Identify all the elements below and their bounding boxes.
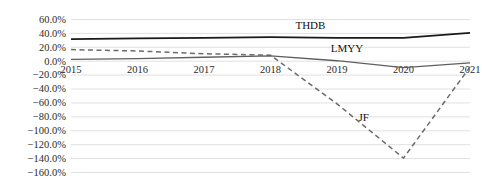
chart-canvas: 60.0%40.0%20.0%0.0%−20.0%−40.0%−60.0%−80… [0,0,482,191]
y-tick-label-10: −140.0% [28,153,67,164]
series-label-thdb: THDB [295,19,325,31]
x-tick-label-3: 2018 [260,64,281,75]
line-chart: 60.0%40.0%20.0%0.0%−20.0%−40.0%−60.0%−80… [0,0,482,191]
y-tick-label-0: 60.0% [39,14,66,25]
y-tick-label-6: −60.0% [33,97,66,108]
y-tick-label-2: 20.0% [39,42,66,53]
y-tick-label-11: −160.0% [28,167,67,178]
x-tick-label-4: 2019 [327,64,348,75]
x-tick-label-5: 2020 [393,64,414,75]
x-tick-label-2: 2017 [194,64,215,75]
chart-background [0,0,482,191]
y-tick-label-5: −40.0% [33,83,66,94]
x-tick-label-0: 2015 [61,64,82,75]
series-label-jf: JF [358,111,368,123]
y-tick-label-9: −120.0% [28,139,67,150]
series-label-lmyy: LMYY [331,42,363,54]
y-tick-label-1: 40.0% [39,28,66,39]
y-tick-label-8: −100.0% [28,125,67,136]
y-tick-label-7: −80.0% [33,111,66,122]
x-tick-label-1: 2016 [127,64,148,75]
x-tick-label-6: 2021 [460,64,481,75]
